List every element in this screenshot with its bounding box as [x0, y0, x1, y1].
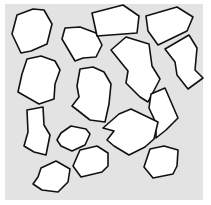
polygon-shape-14	[144, 146, 178, 178]
shapes-canvas	[0, 0, 211, 205]
